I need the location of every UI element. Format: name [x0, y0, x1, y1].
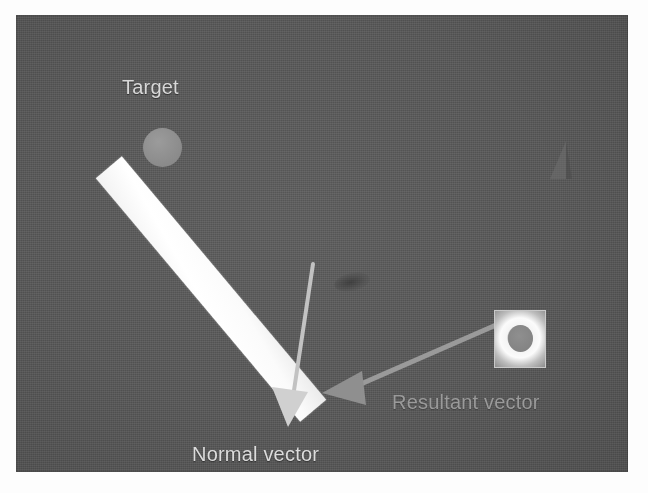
- screenshot-root: Target Result: [0, 0, 648, 493]
- resultant-vector-shaft: [354, 322, 503, 387]
- impact-marker: [333, 269, 372, 294]
- resultant-vector-head: [322, 371, 366, 405]
- resultant-vector-label: Resultant vector: [392, 391, 540, 414]
- paddle-bar[interactable]: [96, 156, 326, 421]
- target-label: Target: [122, 76, 179, 99]
- ball-sprite-box[interactable]: [494, 310, 546, 368]
- game-canvas: Target Result: [16, 15, 628, 472]
- target-circle: [143, 128, 182, 167]
- normal-vector-label: Normal vector: [192, 443, 319, 466]
- ball-core: [508, 325, 533, 352]
- corner-triangle-icon: [544, 139, 578, 181]
